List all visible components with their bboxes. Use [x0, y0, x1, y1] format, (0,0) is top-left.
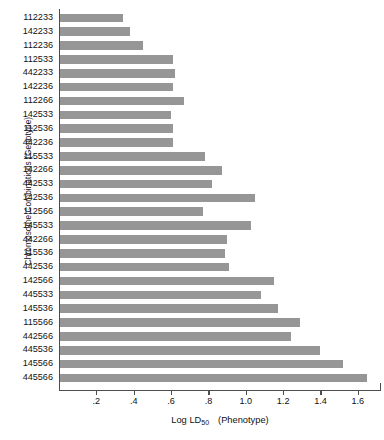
bar [59, 55, 173, 64]
category-label: 142566 [23, 274, 53, 288]
category-label: 115566 [23, 316, 53, 330]
category-label: 445533 [23, 288, 53, 302]
x-axis-title: Log LD50(Phenotype) [59, 415, 381, 426]
category-label: 112233 [23, 11, 53, 25]
bar [59, 14, 123, 23]
x-axis-title-main: Log LD [171, 415, 201, 425]
bar-row [59, 150, 384, 164]
bar [59, 332, 291, 341]
x-axis-tick-label: 1.4 [300, 396, 340, 406]
bar-row [59, 330, 384, 344]
bar [59, 249, 225, 258]
bar [59, 277, 274, 286]
bar-row [59, 25, 384, 39]
bar-row [59, 11, 384, 25]
category-label: 442536 [23, 260, 53, 274]
bar-row [59, 260, 384, 274]
category-label: 142236 [23, 80, 53, 94]
x-axis-tick-label: .2 [76, 396, 116, 406]
category-label: 445566 [23, 371, 53, 385]
bar [59, 180, 212, 189]
category-label: 142233 [23, 25, 53, 39]
bar-row [59, 80, 384, 94]
x-axis-tick [171, 391, 172, 396]
bar-row [59, 39, 384, 53]
bar-row [59, 233, 384, 247]
bar-row [59, 316, 384, 330]
bar [59, 360, 343, 369]
bar-chart: Chromosome Combinations (Genotype) 11223… [0, 0, 384, 440]
x-axis-tick [96, 391, 97, 396]
x-axis-tick [358, 391, 359, 396]
bar [59, 304, 278, 313]
category-label: 442533 [23, 177, 53, 191]
x-axis-tick [208, 391, 209, 396]
x-axis-tick-label: 1.2 [263, 396, 303, 406]
category-label: 112566 [23, 205, 53, 219]
bar [59, 41, 143, 50]
x-axis-tick-label: 1.0 [226, 396, 266, 406]
bar [59, 138, 173, 147]
x-axis-tick-label: 1.6 [338, 396, 378, 406]
bar [59, 111, 171, 120]
bar [59, 207, 203, 216]
category-axis-labels: 1122331422331122361125334422331422361122… [0, 11, 56, 385]
category-label: 442266 [23, 233, 53, 247]
bar-row [59, 108, 384, 122]
category-label: 442236 [23, 136, 53, 150]
bar [59, 291, 261, 300]
y-axis-line [59, 9, 60, 390]
x-axis-tick-label: .8 [188, 396, 228, 406]
bar-row [59, 177, 384, 191]
category-label: 112536 [23, 122, 53, 136]
category-label: 145566 [23, 357, 53, 371]
bar [59, 152, 205, 161]
x-axis-tick [134, 391, 135, 396]
bar-row [59, 163, 384, 177]
x-axis-tick [283, 391, 284, 396]
bar-row [59, 288, 384, 302]
bar [59, 318, 300, 327]
category-label: 142266 [23, 163, 53, 177]
category-label: 112236 [23, 39, 53, 53]
bar [59, 97, 184, 106]
category-label: 112266 [23, 94, 53, 108]
category-label: 442233 [23, 66, 53, 80]
bar-row [59, 302, 384, 316]
category-label: 142536 [23, 191, 53, 205]
category-label: 112533 [23, 53, 53, 67]
bar-row [59, 53, 384, 67]
x-axis-end-cap [380, 383, 381, 390]
bar [59, 263, 229, 272]
category-label: 445536 [23, 343, 53, 357]
x-axis-title-subscript: 50 [201, 419, 209, 426]
bar-row [59, 122, 384, 136]
bar [59, 166, 222, 175]
category-label: 442566 [23, 330, 53, 344]
bar [59, 221, 251, 230]
bar [59, 374, 367, 383]
bar [59, 27, 130, 36]
x-axis-line [59, 390, 381, 391]
bar-row [59, 136, 384, 150]
bar-row [59, 219, 384, 233]
bar-row [59, 371, 384, 385]
bar-row [59, 246, 384, 260]
x-axis-tick-label: .4 [114, 396, 154, 406]
plot-area [59, 11, 384, 385]
bar [59, 124, 173, 133]
category-label: 145533 [23, 219, 53, 233]
bar-row [59, 205, 384, 219]
category-label: 142533 [23, 108, 53, 122]
x-axis-tick-label: .6 [151, 396, 191, 406]
category-label: 145536 [23, 302, 53, 316]
x-axis-tick [320, 391, 321, 396]
bar [59, 346, 320, 355]
bar [59, 83, 173, 92]
category-label: 115536 [23, 246, 53, 260]
x-axis-title-tail: (Phenotype) [218, 415, 269, 425]
bar-row [59, 66, 384, 80]
bar-row [59, 191, 384, 205]
bar [59, 69, 175, 78]
bar [59, 235, 227, 244]
